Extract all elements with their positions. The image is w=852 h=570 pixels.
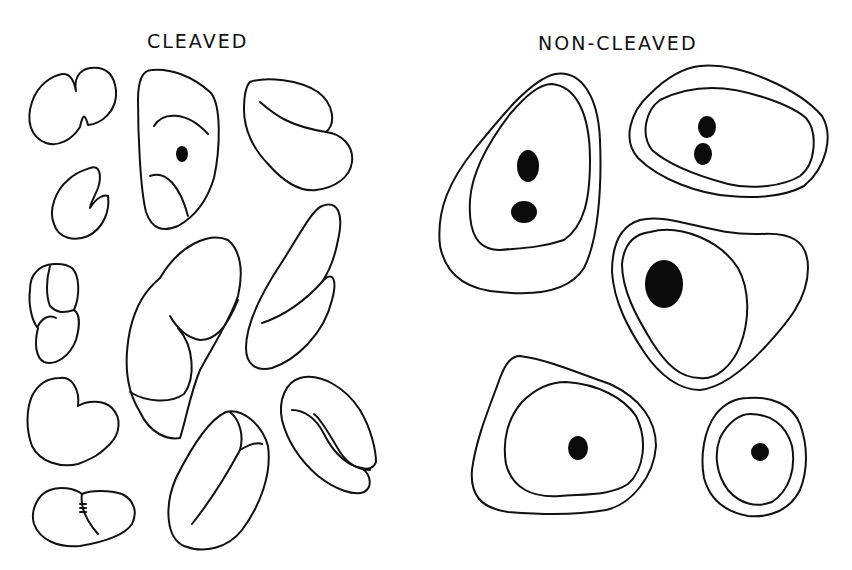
non-cleaved-cell — [703, 398, 807, 517]
non-cleaved-cell — [472, 356, 656, 514]
cleaved-cell — [52, 167, 108, 238]
cleaved-cell — [29, 68, 116, 144]
cleaved-panel — [28, 68, 377, 550]
cleaved-cell — [29, 264, 78, 363]
non-cleaved-cell — [629, 66, 827, 197]
cell-diagram — [0, 0, 852, 570]
cleaved-cell — [127, 238, 241, 439]
cleaved-cell — [138, 70, 219, 229]
cleaved-cell — [281, 377, 376, 493]
cleaved-cell — [168, 411, 268, 549]
non-cleaved-cell — [612, 218, 808, 390]
cleaved-cell — [33, 488, 135, 546]
non-cleaved-panel — [439, 66, 827, 517]
cleaved-cell — [28, 378, 119, 465]
non-cleaved-cell — [439, 74, 600, 294]
cleaved-cell — [244, 79, 352, 190]
cleaved-cell — [246, 205, 340, 369]
